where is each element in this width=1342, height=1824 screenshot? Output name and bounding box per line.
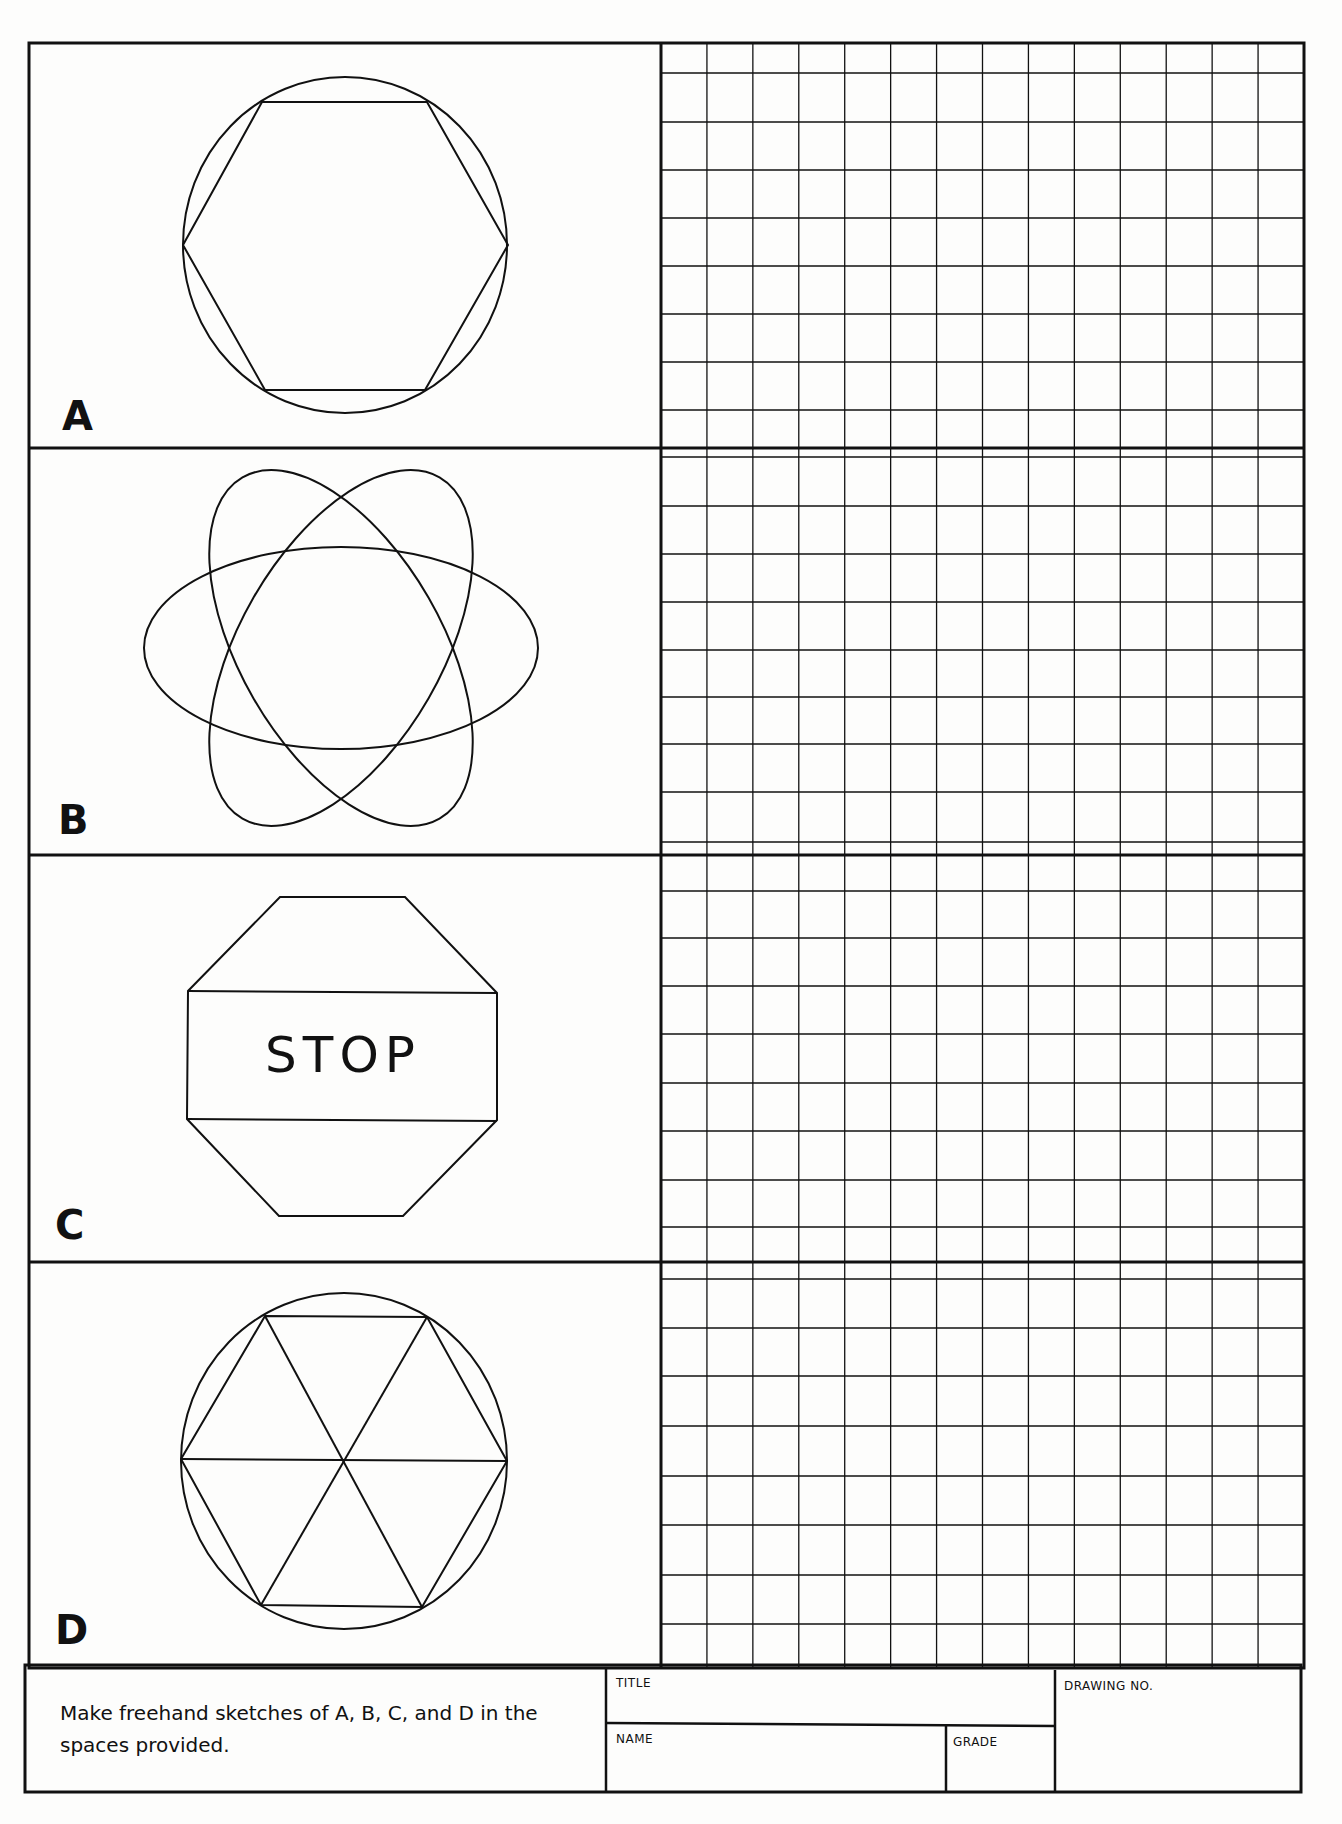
stop-sign-text: STOP [265,1030,421,1080]
sketch-grid-panel-a[interactable] [661,43,1304,448]
figure-c-band-bottom [187,1119,497,1121]
instructions-text: Make freehand sketches of A, B, C, and D… [60,1697,590,1761]
panel-label-d: D [55,1610,88,1650]
figure-c-band-top [188,991,497,993]
figure-b-ellipse-tilted-left [155,427,527,869]
name-field[interactable] [612,1752,944,1788]
figure-d-circle-hexagon-triangles [181,1293,507,1629]
figure-a-circle-hexagon [183,77,508,413]
figure-a-circle [183,77,507,413]
drawing-no-field[interactable] [1061,1700,1299,1788]
panel-label-c: C [55,1205,84,1245]
figure-b-three-ellipses [144,427,538,869]
panel-label-a: A [62,396,93,436]
drawing-no-label: DRAWING NO. [1064,1680,1153,1692]
title-block-divider-name [606,1723,1055,1726]
title-label: TITLE [616,1677,651,1689]
sketch-grid-panel-d[interactable] [661,1262,1304,1668]
sketch-grid-panel-c[interactable] [661,855,1304,1262]
drawing-sheet [0,0,1342,1824]
figure-b-ellipse-tilted-right [155,427,527,869]
panel-label-b: B [58,800,89,840]
sketch-grid-panel-b[interactable] [661,448,1304,855]
title-field[interactable] [612,1694,1052,1722]
grade-field[interactable] [951,1754,1053,1788]
name-label: NAME [616,1733,653,1745]
figure-a-hexagon [183,102,508,390]
grade-label: GRADE [953,1736,998,1748]
figure-b-ellipse-horizontal [144,547,538,749]
sheet-frame [29,43,1304,1668]
